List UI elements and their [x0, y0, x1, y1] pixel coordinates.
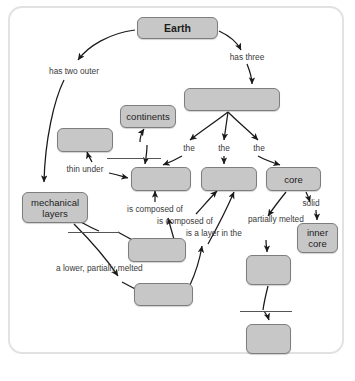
node-three-layers[interactable]: [184, 88, 280, 111]
edge-label-the-2: the: [215, 143, 233, 153]
edge-label-partially-melted: partially melted: [248, 214, 288, 224]
edge-three-layers-to-the-2: [224, 112, 228, 140]
edge-rule-to-crust: [145, 145, 147, 164]
edge-partially-melted-to-outer-core: [266, 240, 267, 252]
node-mechanical-layers[interactable]: mechanical layers: [22, 192, 88, 223]
node-lower-layer[interactable]: [134, 283, 193, 306]
node-middle-layer[interactable]: [128, 238, 186, 262]
node-mantle[interactable]: [201, 167, 257, 191]
rule-middle-layer: [68, 232, 120, 233]
edge-three-layers-to-the-3: [228, 112, 258, 140]
edge-core-to-partially-melted: [268, 192, 286, 216]
edge-label-has-two-outer: has two outer: [43, 66, 105, 76]
node-earth[interactable]: Earth: [137, 17, 218, 39]
edge-thin-under-to-crust: [109, 173, 128, 178]
edge-label-is-a-layer-in-the: is a layer in the: [186, 228, 228, 238]
concept-map-canvas: Earth continents core mechanical layers …: [0, 0, 355, 381]
edge-label-is-composed-of-2: is composed of: [150, 216, 220, 226]
edge-label-solid: solid: [298, 198, 324, 208]
edge-thin-under-to-outer-left: [87, 152, 92, 162]
edge-lower-layer-to-is-a-layer: [190, 246, 202, 285]
edge-three-layers-to-the-1: [190, 112, 228, 140]
rule-crust-top: [107, 158, 161, 159]
node-outer-left[interactable]: [57, 128, 113, 152]
node-bottom-right[interactable]: [246, 324, 291, 354]
edge-the-3-to-core: [258, 156, 280, 165]
node-continents[interactable]: continents: [120, 105, 176, 128]
edge-label-is-composed-of-1: is composed of: [120, 204, 190, 214]
edge-label-the-1: the: [180, 143, 198, 153]
node-inner-core[interactable]: inner core: [297, 223, 338, 253]
edge-solid-to-inner-core: [316, 210, 317, 220]
edge-earth-to-has-two-outer: [78, 30, 135, 60]
edge-earth-to-has-three: [219, 31, 241, 50]
edge-label-has-three: has three: [226, 52, 268, 62]
edge-has-three-to-three-layers: [247, 64, 252, 84]
node-crust[interactable]: [131, 167, 191, 191]
edge-crust-to-continents: [140, 129, 144, 142]
edge-label-the-3: the: [250, 143, 268, 153]
edge-rule-to-bottom-right: [264, 311, 269, 320]
node-core[interactable]: core: [266, 167, 321, 191]
edge-label-thin-under: thin under: [61, 164, 109, 174]
edge-the-1-to-crust: [163, 156, 182, 165]
edge-label-a-lower-partially-melted: a lower, partially melted: [56, 263, 138, 273]
edge-mechanical-to-rule: [81, 222, 99, 231]
node-outer-core[interactable]: [246, 255, 291, 285]
edge-outer-core-to-rule: [263, 286, 268, 310]
rule-bottom-right: [240, 311, 292, 312]
edge-is-composed-of-2-to-mantle: [196, 191, 217, 214]
